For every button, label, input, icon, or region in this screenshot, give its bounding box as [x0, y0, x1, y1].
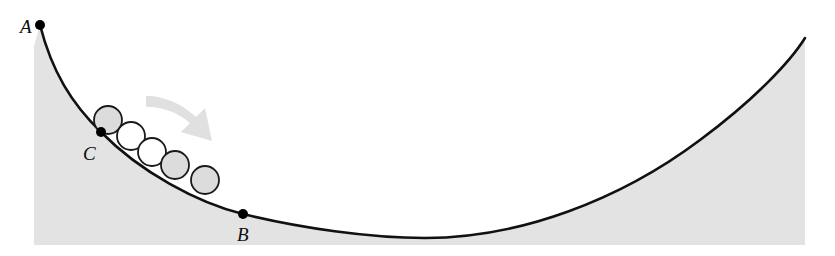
point-marker-a — [35, 20, 45, 30]
figure-root: ACB — [0, 0, 835, 256]
point-label-b: B — [237, 224, 249, 245]
ball-4 — [161, 151, 189, 179]
ball-5 — [191, 166, 219, 194]
physics-diagram-svg: ACB — [0, 0, 835, 256]
point-marker-b — [238, 209, 248, 219]
point-label-a: A — [18, 16, 32, 37]
direction-of-motion-arrow — [146, 96, 212, 141]
point-label-c: C — [83, 143, 96, 164]
shaded-ground-region — [34, 25, 805, 245]
motion-arrow-shape — [146, 96, 212, 141]
point-marker-c — [96, 127, 106, 137]
